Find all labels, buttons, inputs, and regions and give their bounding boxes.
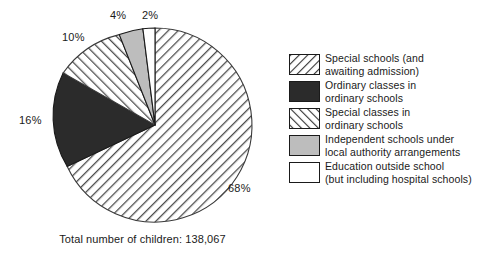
pie-chart-svg: [0, 0, 285, 255]
legend-label-line1: Ordinary classes in: [325, 79, 416, 91]
legend-label-line1: Education outside school: [325, 160, 444, 172]
backslash-hatch-swatch-icon: [289, 54, 320, 75]
forwardslash-hatch-swatch-icon: [289, 108, 320, 129]
legend-label-special-classes: Special classes in ordinary schools: [325, 106, 410, 131]
legend-label-independent-schools: Independent schools under local authorit…: [325, 133, 460, 158]
chart-legend: Special schools (and awaiting admission)…: [289, 52, 487, 187]
chart-caption: Total number of children: 138,067: [0, 233, 285, 246]
legend-label-line1: Independent schools under: [325, 133, 454, 145]
legend-item-independent-schools: Independent schools under local authorit…: [289, 133, 487, 158]
legend-item-education-outside-school: Education outside school (but including …: [289, 160, 487, 185]
legend-label-line2: ordinary schools: [325, 92, 416, 105]
pie-value-label-ordinary-classes: 16%: [19, 114, 42, 126]
legend-label-line1: Special schools (and: [325, 52, 424, 64]
legend-item-special-schools: Special schools (and awaiting admission): [289, 52, 487, 77]
legend-label-education-outside-school: Education outside school (but including …: [325, 160, 472, 185]
pie-chart-figure: 68% 16% 10% 4% 2% Total number of childr…: [0, 0, 285, 255]
pie-value-label-special-classes: 10%: [62, 31, 85, 43]
legend-label-line2: local authority arrangements: [325, 146, 460, 159]
legend-item-ordinary-classes: Ordinary classes in ordinary schools: [289, 79, 487, 104]
solid-gray-swatch-icon: [289, 135, 320, 156]
legend-label-ordinary-classes: Ordinary classes in ordinary schools: [325, 79, 416, 104]
legend-label-line2: (but including hospital schools): [325, 173, 472, 186]
pie-value-label-independent-schools: 4%: [110, 9, 126, 21]
legend-label-line2: awaiting admission): [325, 65, 424, 78]
pie-value-label-special-schools: 68%: [228, 182, 251, 194]
solid-dark-swatch-icon: [289, 81, 320, 102]
legend-item-special-classes: Special classes in ordinary schools: [289, 106, 487, 131]
solid-white-swatch-icon: [289, 162, 320, 183]
pie-value-label-education-outside-school: 2%: [142, 9, 158, 21]
legend-label-line2: ordinary schools: [325, 119, 410, 132]
legend-label-line1: Special classes in: [325, 106, 410, 118]
legend-label-special-schools: Special schools (and awaiting admission): [325, 52, 424, 77]
